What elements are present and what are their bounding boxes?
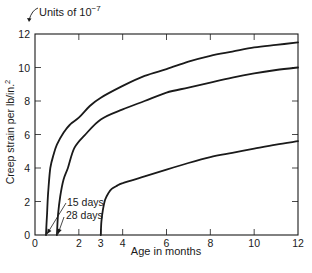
y-tick-label: 4: [24, 162, 30, 174]
creep-strain-chart: 0234681012024681012 15 days28 days Units…: [0, 0, 312, 273]
annotation-arrowhead-icon: [58, 229, 62, 234]
y-axis-label: Creep strain per lb/in.: [4, 84, 16, 184]
y-tick-label: 10: [18, 62, 30, 74]
x-tick-label: 10: [248, 237, 260, 249]
curve-annotations: 15 days28 days: [47, 196, 104, 234]
y-tick-label: 8: [24, 95, 30, 107]
y-axis-label-sup: 2: [3, 80, 12, 84]
units-arrow-icon: [29, 8, 38, 20]
annotation-arrowhead-icon: [47, 229, 51, 234]
annotation-label: 28 days: [66, 209, 103, 221]
y-tick-label: 0: [24, 229, 30, 241]
y-axis-label-group: Creep strain per lb/in.2: [3, 80, 16, 185]
axis-ticks: 0234681012024681012: [18, 28, 304, 249]
x-tick-label: 2: [76, 237, 82, 249]
x-tick-label: 4: [120, 237, 126, 249]
y-tick-label: 6: [24, 129, 30, 141]
curve-3-months: [101, 141, 298, 235]
x-axis-label: Age in months: [131, 245, 202, 257]
units-note: Units of 10−7: [27, 4, 101, 22]
x-tick-label: 8: [207, 237, 213, 249]
x-tick-label: 0: [32, 237, 38, 249]
x-tick-label: 12: [292, 237, 304, 249]
svg-text:Units of 10−7: Units of 10−7: [39, 4, 101, 18]
y-tick-label: 2: [24, 196, 30, 208]
x-tick-label: 3: [98, 237, 104, 249]
units-exponent: −7: [92, 4, 102, 13]
y-tick-label: 12: [18, 28, 30, 40]
units-note-label: Units of 10: [39, 6, 92, 18]
units-arrowhead-icon: [27, 18, 32, 22]
annotation-label: 15 days: [67, 196, 104, 208]
svg-text:Creep strain per lb/in.2: Creep strain per lb/in.2: [3, 80, 16, 185]
